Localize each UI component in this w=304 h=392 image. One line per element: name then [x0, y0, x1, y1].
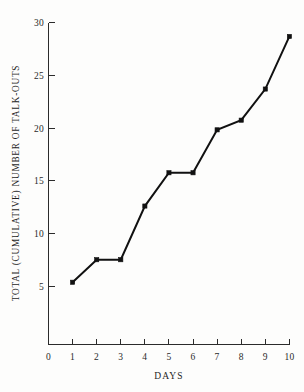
data-point-markers	[70, 34, 291, 284]
x-axis-tick-labels: 0 1 2 3 4 5 6 7 8 9 10	[46, 352, 294, 362]
y-tick-label-10: 10	[34, 229, 44, 239]
data-point-day-5	[167, 171, 171, 175]
x-axis-ticks	[49, 339, 290, 345]
data-point-day-6	[191, 171, 195, 175]
y-tick-label-15: 15	[34, 176, 44, 186]
y-tick-label-20: 20	[34, 124, 44, 134]
x-tick-label-4: 4	[142, 352, 147, 362]
x-axis-title: DAYS	[154, 371, 183, 381]
x-tick-label-3: 3	[118, 352, 123, 362]
y-axis-title: TOTAL (CUMULATIVE) NUMBER OF TALK-OUTS	[11, 65, 22, 302]
line-chart-canvas: 30 25 20 15 10 5 0 1 2 3 4	[0, 0, 304, 392]
x-tick-label-1: 1	[70, 352, 75, 362]
y-tick-label-5: 5	[39, 282, 44, 292]
data-point-day-4	[143, 204, 147, 208]
data-point-day-2	[95, 258, 99, 262]
y-axis-tick-labels: 30 25 20 15 10 5	[34, 18, 44, 292]
data-point-day-3	[119, 258, 123, 262]
data-point-day-1	[70, 280, 74, 284]
x-tick-label-2: 2	[94, 352, 99, 362]
x-tick-label-7: 7	[215, 352, 220, 362]
y-axis-ticks	[49, 23, 55, 287]
chart-figure: 30 25 20 15 10 5 0 1 2 3 4	[0, 0, 304, 392]
x-tick-label-9: 9	[263, 352, 268, 362]
data-point-day-8	[239, 118, 243, 122]
data-point-day-7	[215, 128, 219, 132]
x-tick-label-0: 0	[46, 352, 51, 362]
y-tick-label-25: 25	[34, 71, 44, 81]
y-tick-label-30: 30	[34, 18, 44, 28]
x-tick-label-8: 8	[239, 352, 244, 362]
x-tick-label-10: 10	[284, 352, 294, 362]
data-point-day-10	[287, 34, 291, 38]
data-series-line	[73, 36, 290, 282]
data-point-day-9	[263, 87, 267, 91]
x-tick-label-5: 5	[166, 352, 171, 362]
x-tick-label-6: 6	[191, 352, 196, 362]
